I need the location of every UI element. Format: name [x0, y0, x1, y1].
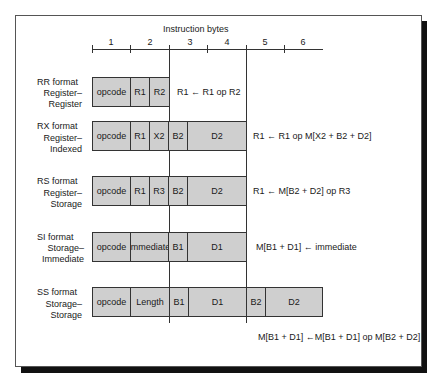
field-b1: B1: [169, 233, 188, 261]
axis-tick: [130, 45, 131, 53]
field-b2: B2: [169, 177, 188, 205]
format-subtitle: Storage–: [40, 299, 82, 310]
field-opcode: opcode: [93, 233, 131, 261]
operation-formula: M[B1 + D1] ←M[B1 + D1] op M[B2 + D2]: [258, 332, 420, 342]
field-d2: D2: [188, 177, 246, 205]
format-subtitle: Storage: [40, 199, 82, 210]
field-r3: R3: [150, 177, 169, 205]
field-x2: X2: [150, 122, 169, 150]
field-b1: B1: [170, 288, 189, 316]
field-b2: B2: [247, 288, 266, 316]
format-name: RR format: [37, 77, 78, 88]
field-d1: D1: [188, 233, 246, 261]
format-subtitle: Register–: [40, 188, 82, 199]
instruction-box: opcode Length B1 D1 B2 D2: [92, 287, 323, 317]
field-d2: D2: [188, 122, 246, 150]
format-name: RS format: [37, 176, 78, 187]
byte-label-1: 1: [101, 37, 121, 47]
format-subtitle: Indexed: [40, 144, 82, 155]
field-d2: D2: [266, 288, 322, 316]
instruction-box: opcode immediate B1 D1: [92, 232, 247, 262]
field-d1: D1: [189, 288, 247, 316]
field-immediate: immediate: [131, 233, 169, 261]
byte-label-4: 4: [217, 37, 237, 47]
format-subtitle: Register–: [40, 88, 82, 99]
byte-label-2: 2: [140, 37, 160, 47]
field-r1: R1: [131, 122, 150, 150]
byte-label-3: 3: [180, 37, 200, 47]
format-subtitle: Storage–: [40, 243, 84, 254]
format-name: SI format: [37, 232, 74, 243]
instruction-box: opcode R1 R2: [92, 77, 170, 107]
field-r1: R1: [131, 177, 150, 205]
operation-formula: M[B1 + D1] ← immediate: [256, 242, 357, 252]
field-r1: R1: [131, 78, 150, 106]
axis-tick: [92, 45, 93, 53]
byte-label-6: 6: [293, 37, 313, 47]
field-opcode: opcode: [93, 288, 131, 316]
field-opcode: opcode: [93, 177, 131, 205]
instruction-box: opcode R1 R3 B2 D2: [92, 176, 247, 206]
field-length: Length: [131, 288, 170, 316]
format-name: RX format: [37, 121, 78, 132]
axis-tick: [207, 45, 208, 53]
format-subtitle: Storage: [40, 310, 82, 321]
operation-formula: R1 ← R1 op M[X2 + B2 + D2]: [253, 131, 372, 141]
format-subtitle: Register: [40, 99, 82, 110]
format-subtitle: Immediate: [40, 254, 84, 265]
field-r2: R2: [150, 78, 169, 106]
format-name: SS format: [37, 287, 77, 298]
field-opcode: opcode: [93, 122, 131, 150]
operation-formula: R1 ← M[B2 + D2] op R3: [253, 186, 350, 196]
operation-formula: R1 ← R1 op R2: [177, 87, 241, 97]
diagram-title: Instruction bytes: [163, 24, 229, 34]
field-b2: B2: [169, 122, 188, 150]
byte-label-5: 5: [255, 37, 275, 47]
field-opcode: opcode: [93, 78, 131, 106]
format-subtitle: Register–: [40, 133, 82, 144]
instruction-box: opcode R1 X2 B2 D2: [92, 121, 247, 151]
axis-tick: [284, 45, 285, 53]
